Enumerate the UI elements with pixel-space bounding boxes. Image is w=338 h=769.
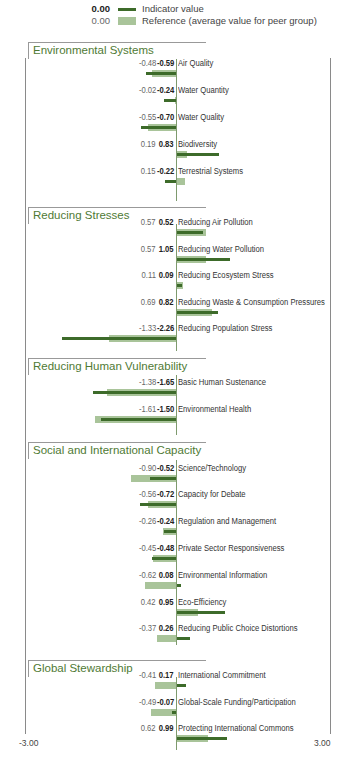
indicator-value: -0.24 <box>157 516 174 526</box>
indicator-bar <box>177 153 219 156</box>
indicator-value: 0.08 <box>159 570 174 580</box>
indicator-bar <box>164 99 176 102</box>
indicator-name: Reducing Air Pollution <box>178 217 253 227</box>
indicator-bar <box>177 258 230 261</box>
indicator-name: Reducing Ecosystem Stress <box>178 270 274 280</box>
table-row: -0.26-0.24Regulation and Management <box>0 516 338 540</box>
reference-value: 0.11 <box>142 270 156 280</box>
section-social-international-capacity: Social and International Capacity <box>28 442 206 459</box>
indicator-value: 1.05 <box>159 244 174 254</box>
reference-value: -1.61 <box>139 404 156 414</box>
table-row: -0.410.17International Commitment <box>0 670 338 694</box>
legend-reference: 0.00 Reference (average value for peer g… <box>88 15 338 27</box>
reference-value: -0.37 <box>139 623 156 633</box>
reference-value: 0.42 <box>141 597 156 607</box>
indicator-bar <box>177 311 218 314</box>
table-row: 0.571.05Reducing Water Pollution <box>0 244 338 268</box>
reference-value: -0.62 <box>139 570 156 580</box>
table-row: -0.49-0.07Global-Scale Funding/Participa… <box>0 697 338 721</box>
indicator-value: 0.99 <box>159 723 174 733</box>
indicator-name: Environmental Health <box>178 404 251 414</box>
section-environmental-systems: Environmental Systems <box>28 42 206 59</box>
indicator-bar <box>177 231 203 234</box>
reference-value: -0.48 <box>139 58 156 68</box>
reference-bar <box>155 682 176 689</box>
indicator-name: Water Quantity <box>178 85 229 95</box>
indicator-value: -0.59 <box>157 58 174 68</box>
indicator-bar <box>101 418 176 421</box>
indicator-bar <box>172 711 176 714</box>
indicator-value: -1.50 <box>157 404 174 414</box>
reference-value: -0.02 <box>139 85 156 95</box>
section-title: Reducing Human Vulnerability <box>33 360 187 372</box>
table-row: -0.55-0.70Water Quality <box>0 112 338 136</box>
reference-bar <box>145 582 176 589</box>
indicator-bar <box>177 584 181 587</box>
reference-value: -0.55 <box>139 112 156 122</box>
indicator-name: Capacity for Debate <box>178 489 246 499</box>
reference-value: -1.38 <box>139 377 156 387</box>
indicator-name: Reducing Waste & Consumption Pressures <box>178 297 325 307</box>
indicator-bar <box>177 684 186 687</box>
section-title: Environmental Systems <box>33 44 154 56</box>
table-row: 0.690.82Reducing Waste & Consumption Pre… <box>0 297 338 321</box>
table-row: -0.48-0.59Air Quality <box>0 58 338 82</box>
indicator-bar <box>62 337 176 340</box>
table-row: 0.570.52Reducing Air Pollution <box>0 217 338 241</box>
indicator-bar <box>93 391 176 394</box>
legend-reference-value: 0.00 <box>88 15 110 26</box>
reference-value: 0.57 <box>141 244 156 254</box>
table-row: -0.56-0.72Capacity for Debate <box>0 489 338 513</box>
legend-indicator-value: 0.00 <box>88 3 110 14</box>
indicator-bar <box>140 503 176 506</box>
indicator-bar <box>141 126 176 129</box>
indicator-bar <box>152 557 176 560</box>
indicator-bar <box>177 737 227 740</box>
table-row: 0.15-0.22Terrestrial Systems <box>0 166 338 190</box>
indicator-bar <box>177 637 190 640</box>
table-row: 0.110.09Reducing Ecosystem Stress <box>0 270 338 294</box>
indicator-bar <box>146 72 176 75</box>
indicator-bar <box>150 477 176 480</box>
indicator-value: -2.26 <box>157 323 174 333</box>
section-reducing-human-vulnerability: Reducing Human Vulnerability <box>28 358 206 375</box>
indicator-name: Basic Human Sustenance <box>178 377 266 387</box>
indicator-value: 0.95 <box>159 597 174 607</box>
indicator-name: Global-Scale Funding/Participation <box>178 697 296 707</box>
indicator-name: Private Sector Responsiveness <box>178 543 284 553</box>
table-row: -0.370.26Reducing Public Choice Distorti… <box>0 623 338 647</box>
indicator-name: Eco-Efficiency <box>178 597 226 607</box>
legend-indicator: 0.00 Indicator value <box>88 3 338 15</box>
indicator-name: Science/Technology <box>178 463 246 473</box>
reference-value: 0.57 <box>141 217 156 227</box>
indicator-value: -1.65 <box>157 377 174 387</box>
indicator-value: 0.83 <box>159 139 174 149</box>
indicator-bar <box>165 180 176 183</box>
legend-reference-label: Reference (average value for peer group) <box>142 15 317 26</box>
indicator-name: Protecting International Commons <box>178 723 294 733</box>
indicator-name: International Commitment <box>178 670 266 680</box>
indicator-name: Air Quality <box>178 58 213 68</box>
indicator-swatch-icon <box>118 8 136 11</box>
table-row: -0.45-0.48Private Sector Responsiveness <box>0 543 338 567</box>
table-row: -0.620.08Environmental Information <box>0 570 338 594</box>
reference-value: -0.41 <box>139 670 156 680</box>
table-row: 0.190.83Biodiversity <box>0 139 338 163</box>
reference-value: -1.33 <box>139 323 156 333</box>
indicator-value: -0.22 <box>157 166 174 176</box>
indicator-name: Reducing Water Pollution <box>178 244 264 254</box>
reference-bar <box>157 635 176 642</box>
legend-indicator-label: Indicator value <box>142 3 204 14</box>
axis-max-label: 3.00 <box>314 738 331 748</box>
table-row: -1.33-2.26Reducing Population Stress <box>0 323 338 347</box>
indicator-value: 0.52 <box>159 217 174 227</box>
indicator-name: Reducing Public Choice Distortions <box>178 623 297 633</box>
table-row: -0.90-0.52Science/Technology <box>0 463 338 487</box>
indicator-name: Terrestrial Systems <box>178 166 243 176</box>
indicator-name: Biodiversity <box>178 139 217 149</box>
indicator-bar <box>164 530 176 533</box>
indicator-value: 0.09 <box>159 270 174 280</box>
table-row: -0.02-0.24Water Quantity <box>0 85 338 109</box>
indicator-value: -0.70 <box>157 112 174 122</box>
reference-value: 0.15 <box>141 166 156 176</box>
